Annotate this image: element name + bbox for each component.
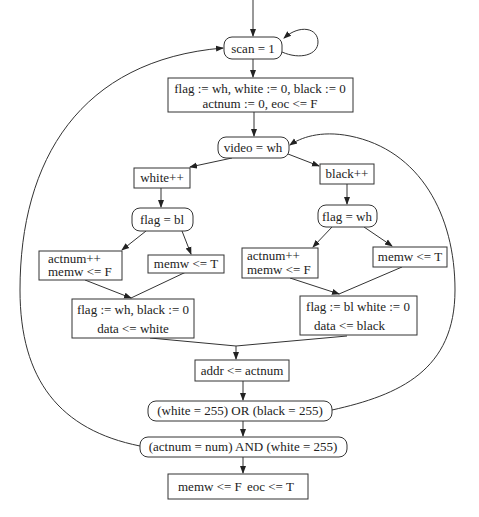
node-black-inc-label: black++ <box>326 166 369 181</box>
node-white-inc-label: white++ <box>140 170 184 185</box>
edge-rightmemw-to-rightassign <box>339 267 402 294</box>
node-and-cond-label: (actnum = num) AND (white = 255) <box>149 439 338 454</box>
node-left-memw-label: memw <= T <box>154 256 218 271</box>
node-final-part1: memw <= F <box>178 479 242 494</box>
node-scan: scan = 1 <box>224 37 282 59</box>
node-video: video = wh <box>218 137 289 158</box>
node-init-line1: flag := wh, white := 0, black := 0 <box>174 81 345 96</box>
edge-leftmemw-to-leftassign <box>131 272 186 298</box>
edge-flagbl-to-leftactnum <box>122 231 146 250</box>
edge-rightassign-to-addr <box>236 336 347 346</box>
node-left-assign-line2: data <= white <box>97 321 169 336</box>
node-left-actnum-line2: memw <= F <box>48 264 112 279</box>
node-left-memw: memw <= T <box>148 255 224 273</box>
node-right-memw: memw <= T <box>373 247 447 267</box>
node-or-cond: (white = 255) OR (black = 255) <box>148 401 332 421</box>
edge-scan-self-loop <box>282 29 318 56</box>
node-flag-bl: flag = bl <box>132 208 193 231</box>
node-left-assign: flag := wh, black := 0 data <= white <box>72 299 194 338</box>
node-final: memw <= F eoc <= T <box>168 474 308 499</box>
node-or-cond-label: (white = 255) OR (black = 255) <box>157 403 323 418</box>
edge-leftactnum-to-leftassign <box>85 280 131 298</box>
edge-leftassign-to-addr <box>150 338 236 359</box>
node-video-label: video = wh <box>224 140 283 155</box>
node-and-cond: (actnum = num) AND (white = 255) <box>140 437 347 457</box>
node-right-memw-label: memw <= T <box>378 249 442 264</box>
node-right-assign-line1: flag := bl white := 0 <box>306 299 410 314</box>
node-flag-bl-label: flag = bl <box>140 212 185 227</box>
edge-rightactnum-to-rightassign <box>290 278 339 294</box>
node-init: flag := wh, white := 0, black := 0 actnu… <box>168 78 353 112</box>
edge-flagwh-to-rightmemw <box>364 227 392 246</box>
node-init-line2: actnum := 0, eoc <= F <box>202 96 317 111</box>
edge-video-to-black <box>288 154 319 166</box>
node-flag-wh: flag = wh <box>318 205 377 227</box>
node-flag-wh-label: flag = wh <box>322 209 372 224</box>
node-right-assign-line2: data <= black <box>314 318 385 333</box>
flowchart-canvas: scan = 1 flag := wh, white := 0, black :… <box>0 0 479 517</box>
node-scan-label: scan = 1 <box>231 41 274 56</box>
node-white-inc: white++ <box>134 168 190 188</box>
node-left-assign-line1: flag := wh, black := 0 <box>77 302 189 317</box>
node-final-part2: eoc <= T <box>247 479 294 494</box>
node-right-actnum: actnum++ memw <= F <box>242 248 318 278</box>
edge-video-to-white <box>190 158 232 167</box>
node-addr-label: addr <= actnum <box>201 363 284 378</box>
node-black-inc: black++ <box>320 164 374 184</box>
node-right-assign: flag := bl white := 0 data <= black <box>300 296 417 335</box>
node-addr: addr <= actnum <box>195 360 289 381</box>
edge-flagbl-to-leftmemw <box>182 231 191 254</box>
node-right-actnum-line2: memw <= F <box>247 262 311 277</box>
node-right-actnum-line1: actnum++ <box>247 248 300 263</box>
node-left-actnum: actnum++ memw <= F <box>39 251 122 280</box>
edge-flagwh-to-rightactnum <box>313 227 332 247</box>
